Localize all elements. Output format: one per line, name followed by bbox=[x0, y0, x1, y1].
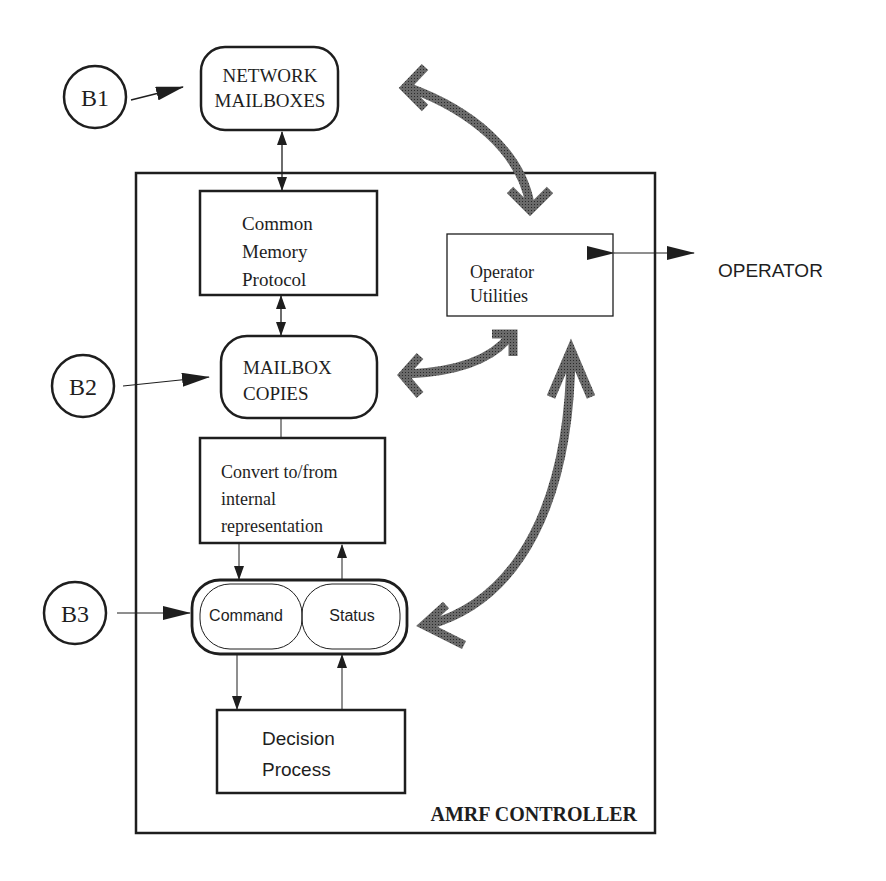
operator-utilities-line1: Operator bbox=[470, 262, 534, 282]
thick-arrow-network-operator bbox=[405, 67, 550, 210]
b1-label: B1 bbox=[81, 85, 109, 111]
operator-utilities-line2: Utilities bbox=[470, 286, 528, 306]
network-mailboxes-line2: MAILBOXES bbox=[215, 90, 326, 111]
mailbox-copies-line2: COPIES bbox=[243, 383, 308, 404]
b1-input: B1 bbox=[64, 66, 126, 128]
convert-line2: internal bbox=[221, 489, 276, 509]
b1-arrow bbox=[131, 87, 183, 100]
decision-process-node: Decision Process bbox=[217, 710, 405, 793]
b2-label: B2 bbox=[69, 374, 97, 400]
cmp-line3: Protocol bbox=[242, 269, 306, 290]
b3-input: B3 bbox=[44, 582, 106, 644]
amrf-controller-label: AMRF CONTROLLER bbox=[431, 803, 638, 825]
convert-line1: Convert to/from bbox=[221, 462, 337, 482]
decision-line1: Decision bbox=[262, 728, 335, 749]
convert-node: Convert to/from internal representation bbox=[200, 438, 385, 543]
mailbox-copies-line1: MAILBOX bbox=[243, 357, 332, 378]
mailbox-copies-node: MAILBOX COPIES bbox=[221, 336, 377, 418]
network-mailboxes-line1: NETWORK bbox=[223, 65, 318, 86]
status-label: Status bbox=[329, 607, 374, 624]
cmp-line2: Memory bbox=[242, 241, 308, 262]
operator-utilities-node: Operator Utilities bbox=[447, 234, 613, 316]
operator-label: OPERATOR bbox=[718, 260, 823, 281]
b3-label: B3 bbox=[61, 601, 89, 627]
cmp-line1: Common bbox=[242, 213, 313, 234]
command-status-node: Command Status bbox=[192, 580, 407, 654]
decision-line2: Process bbox=[262, 759, 331, 780]
amrf-controller-box bbox=[136, 173, 655, 833]
thick-arrow-command-operator bbox=[424, 350, 591, 645]
network-mailboxes-node: NETWORK MAILBOXES bbox=[201, 47, 338, 130]
thick-arrow-mailbox-operator bbox=[403, 334, 513, 395]
command-label: Command bbox=[209, 607, 283, 624]
amrf-controller-diagram: B1 NETWORK MAILBOXES Common Memory Proto… bbox=[0, 0, 886, 881]
common-memory-protocol-node: Common Memory Protocol bbox=[200, 191, 377, 295]
b2-input: B2 bbox=[52, 355, 114, 417]
convert-line3: representation bbox=[221, 516, 323, 536]
